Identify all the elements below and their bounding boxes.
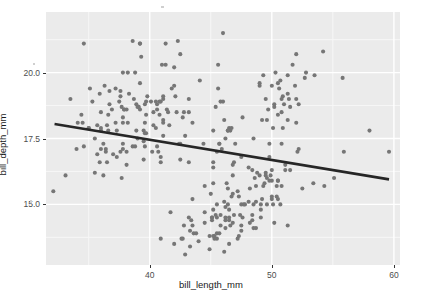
capture-speck-top [161,6,164,8]
y-axis-title: bill_depth_mm [0,114,8,176]
y-tick-mark [43,139,46,140]
capture-speck-left [33,63,35,65]
scatter-plot-figure: 15.017.520.0405060 bill_length_mm bill_d… [0,0,422,299]
y-tick-label: 17.5 [14,134,40,144]
y-tick-label: 15.0 [14,199,40,209]
x-axis-title: bill_length_mm [0,279,422,290]
x-tick-mark [150,265,151,268]
trend-line [46,12,400,265]
capture-speck-bottom-left [30,200,32,203]
plot-panel [46,12,400,265]
y-tick-mark [43,204,46,205]
y-tick-mark [43,73,46,74]
x-tick-mark [394,265,395,268]
x-tick-mark [272,265,273,268]
y-tick-label: 20.0 [14,68,40,78]
